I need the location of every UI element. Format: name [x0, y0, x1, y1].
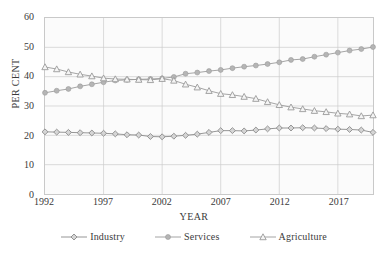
x-axis-tick: 2007 — [211, 197, 231, 207]
data-point-circle — [359, 47, 364, 52]
data-point-circle — [230, 66, 235, 71]
data-point-diamond — [124, 132, 130, 138]
chart-container: 0102030405060 PER CENT 19921997200220072… — [0, 0, 388, 253]
data-point-diamond — [265, 126, 271, 132]
data-point-circle — [371, 45, 376, 50]
data-point-diamond — [241, 128, 247, 134]
legend-item-services[interactable]: Services — [155, 231, 219, 242]
x-axis-tick: 2017 — [329, 197, 349, 207]
data-point-circle — [89, 82, 94, 87]
data-point-diamond — [370, 129, 376, 135]
data-point-circle — [277, 60, 282, 65]
data-point-circle — [166, 234, 171, 239]
legend-label: Industry — [90, 231, 125, 242]
data-point-diamond — [71, 234, 77, 240]
data-point-diamond — [42, 129, 48, 135]
chart-title-clipped — [46, 0, 346, 2]
triangle-icon — [250, 232, 276, 242]
data-point-diamond — [253, 127, 259, 133]
legend-label: Agriculture — [279, 231, 327, 242]
data-point-diamond — [311, 125, 317, 131]
x-axis-title: YEAR — [0, 211, 388, 222]
y-axis-tick: 20 — [0, 131, 34, 141]
data-point-circle — [54, 88, 59, 93]
data-point-circle — [218, 67, 223, 72]
series-industry — [42, 125, 376, 140]
data-point-diamond — [218, 128, 224, 134]
plot-svg — [45, 18, 373, 194]
data-point-diamond — [347, 127, 353, 133]
data-point-circle — [289, 57, 294, 62]
x-axis-tick: 2002 — [152, 197, 172, 207]
data-point-diamond — [147, 134, 153, 140]
data-point-diamond — [136, 132, 142, 138]
data-point-circle — [324, 52, 329, 57]
y-axis-tick: 60 — [0, 12, 34, 22]
x-axis-tick: 1997 — [93, 197, 113, 207]
data-point-circle — [312, 54, 317, 59]
data-point-diamond — [65, 129, 71, 135]
data-point-triangle — [182, 81, 188, 87]
diamond-icon — [61, 232, 87, 242]
data-point-diamond — [358, 127, 364, 133]
data-point-diamond — [54, 129, 60, 135]
data-point-circle — [66, 87, 71, 92]
data-point-diamond — [323, 126, 329, 132]
y-axis-tick: 10 — [0, 160, 34, 170]
data-point-diamond — [194, 131, 200, 137]
data-point-diamond — [112, 131, 118, 137]
data-point-circle — [78, 84, 83, 89]
legend-item-agriculture[interactable]: Agriculture — [250, 231, 327, 242]
data-point-diamond — [288, 125, 294, 131]
data-point-diamond — [171, 133, 177, 139]
data-point-circle — [265, 62, 270, 67]
data-point-diamond — [276, 125, 282, 131]
data-point-diamond — [159, 134, 165, 140]
data-point-circle — [335, 50, 340, 55]
chart-legend: IndustryServicesAgriculture — [0, 231, 388, 242]
data-point-circle — [195, 70, 200, 75]
data-point-circle — [207, 69, 212, 74]
circle-icon — [155, 232, 181, 242]
data-point-triangle — [42, 64, 48, 70]
x-axis-tick: 1992 — [34, 197, 54, 207]
data-point-diamond — [183, 132, 189, 138]
data-point-diamond — [229, 128, 235, 134]
data-point-circle — [242, 64, 247, 69]
y-axis-tick: 0 — [0, 190, 34, 200]
y-axis-title: PER CENT — [10, 44, 21, 124]
legend-item-industry[interactable]: Industry — [61, 231, 125, 242]
data-point-circle — [43, 90, 48, 95]
data-point-circle — [183, 71, 188, 76]
data-point-diamond — [77, 130, 83, 136]
data-point-circle — [253, 63, 258, 68]
data-point-diamond — [300, 125, 306, 131]
data-point-circle — [347, 48, 352, 53]
legend-label: Services — [184, 231, 219, 242]
plot-area — [44, 17, 374, 195]
data-point-circle — [300, 57, 305, 62]
data-point-diamond — [335, 126, 341, 132]
x-axis-tick: 2012 — [270, 197, 290, 207]
data-point-diamond — [206, 129, 212, 135]
